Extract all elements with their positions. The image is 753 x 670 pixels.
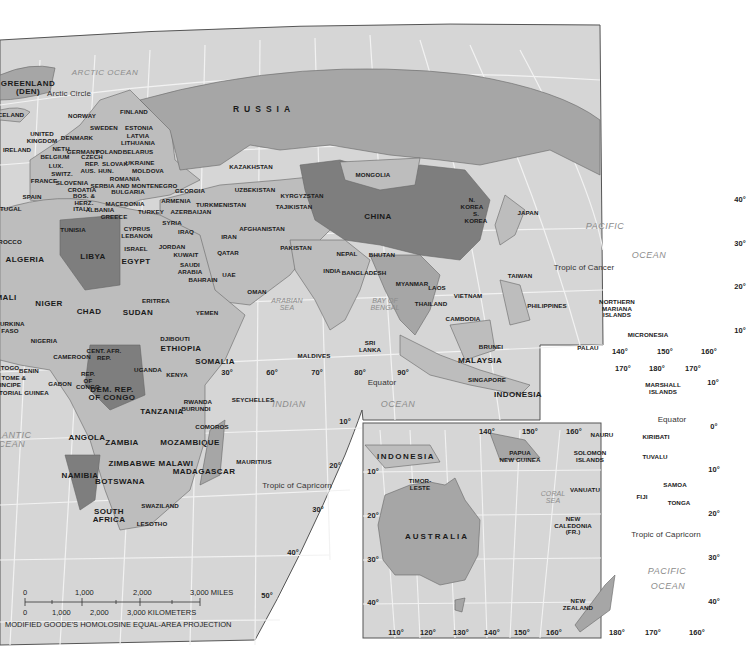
label-nauru: NAURU: [591, 432, 614, 439]
scale-km-1000: 1,000: [52, 608, 71, 617]
label-equatorial-guinea: EQUATORIAL GUINEA: [0, 390, 49, 397]
label-inset-indonesia: INDONESIA: [377, 453, 435, 461]
label-botswana: BOTSWANA: [95, 478, 145, 486]
label-bangladesh: BANGLADESH: [342, 270, 387, 277]
label-inset-pacific-ocean-2: OCEAN: [651, 582, 686, 591]
lon-label-60: 60°: [266, 369, 278, 377]
label-czech: CZECH REP.: [81, 154, 103, 167]
label-moldova: MOLDOVA: [132, 168, 164, 175]
label-swaziland: SWAZILAND: [141, 503, 179, 510]
label-central-african-rep: CENT. AFR. REP.: [87, 348, 122, 361]
label-bhutan: BHUTAN: [369, 252, 395, 259]
scale-km-2000: 2,000: [90, 608, 109, 617]
label-egypt: EGYPT: [121, 258, 150, 266]
label-sudan: SUDAN: [123, 309, 153, 317]
scale-km-0: 0: [23, 608, 27, 617]
label-greece: GREECE: [101, 214, 128, 221]
label-sri-lanka: SRI LANKA: [359, 340, 381, 353]
label-comoros: COMOROS: [195, 424, 228, 431]
inset-lon-140: 140°: [479, 428, 495, 436]
label-russia: RUSSIA: [233, 105, 295, 114]
label-coral-sea: CORAL SEA: [541, 490, 566, 505]
label-n-korea: N. KOREA: [461, 197, 484, 210]
scale-miles-0: 0: [23, 588, 27, 597]
lat-label-s40: 40°: [287, 549, 299, 557]
label-france: FRANCE: [31, 178, 57, 185]
label-ethiopia: ETHIOPIA: [161, 345, 202, 353]
label-estonia: ESTONIA: [125, 125, 153, 132]
label-zimbabwe: ZIMBABWE: [108, 460, 155, 468]
label-macedonia: MACEDONIA: [105, 201, 144, 208]
label-oman: OMAN: [247, 289, 266, 296]
label-inset-equator: Equator: [658, 416, 687, 424]
label-china: CHINA: [364, 213, 391, 221]
label-bahrain: BAHRAIN: [188, 277, 217, 284]
label-palau: PALAU: [577, 345, 598, 352]
label-angola: ANGOLA: [68, 434, 105, 442]
label-belarus: BELARUS: [123, 149, 154, 156]
label-tunisia: TUNISIA: [60, 227, 85, 234]
inset-lon-140b: 140°: [484, 629, 500, 637]
label-indian-ocean-2: OCEAN: [381, 400, 416, 409]
label-qatar: QATAR: [217, 250, 239, 257]
label-belgium: BELGIUM: [40, 154, 69, 161]
label-indian: INDIAN: [272, 400, 306, 409]
label-nepal: NEPAL: [336, 251, 357, 258]
inset-lat-20s-right: 20°: [708, 510, 720, 518]
inset-lat-10s-left: 10°: [367, 468, 379, 476]
label-eritrea: ERITREA: [142, 298, 170, 305]
label-pacific: PACIFIC: [586, 222, 624, 231]
lat-label-40: 40°: [734, 196, 746, 204]
label-northern-mariana: NORTHERN MARIANA ISLANDS: [599, 299, 635, 319]
label-timor-leste: TIMOR- LESTE: [409, 478, 432, 491]
label-chad: CHAD: [77, 308, 102, 316]
label-inset-pacific: PACIFIC: [648, 567, 686, 576]
label-tuvalu: TUVALU: [642, 454, 667, 461]
label-s-korea: S. KOREA: [465, 211, 488, 224]
lat-label-s10: 10°: [339, 418, 351, 426]
label-pacific-ocean-2: OCEAN: [632, 251, 667, 260]
label-libya: LIBYA: [80, 253, 105, 261]
lat-label-s50: 50°: [261, 592, 273, 600]
label-taiwan: TAIWAN: [508, 273, 533, 280]
lon-label-160: 160°: [701, 348, 717, 356]
label-cambodia: CAMBODIA: [446, 316, 481, 323]
lon-label-90: 90°: [397, 369, 409, 377]
label-gabon: GABON: [48, 381, 72, 388]
label-tajikistan: TAJIKISTAN: [276, 204, 313, 211]
label-samoa: SAMOA: [663, 482, 687, 489]
label-armenia: ARMENIA: [161, 198, 191, 205]
label-zambia: ZAMBIA: [105, 439, 139, 447]
inset-lon-110: 110°: [388, 629, 404, 637]
lat-label-30: 30°: [734, 240, 746, 248]
label-papua-new-guinea: PAPUA NEW GUINEA: [499, 450, 540, 463]
label-hun: HUN.: [98, 168, 114, 175]
label-singapore: SINGAPORE: [468, 377, 506, 384]
inset-lat-10n: 10°: [707, 379, 719, 387]
label-iceland: ICELAND: [0, 112, 24, 119]
lon-label-70: 70°: [311, 369, 323, 377]
inset-lat-40s-left: 40°: [367, 599, 379, 607]
inset-lon-160: 160°: [566, 428, 582, 436]
label-uzbekistan: UZBEKISTAN: [235, 187, 275, 194]
label-uk: UNITED KINGDOM: [27, 131, 58, 144]
label-saudi-arabia: SAUDI ARABIA: [178, 262, 203, 275]
label-niger: NIGER: [35, 300, 62, 308]
label-lebanon: LEBANON: [121, 233, 152, 240]
label-equator: Equator: [368, 379, 397, 387]
label-kyrgyzstan: KYRGYZSTAN: [280, 193, 323, 200]
label-aus: AUS.: [80, 168, 95, 175]
label-mali: MALI: [0, 294, 17, 302]
label-kenya: KENYA: [166, 372, 188, 379]
label-mauritius: MAURITIUS: [236, 459, 271, 466]
lon-label-150: 150°: [657, 348, 673, 356]
label-togo: TOGO: [1, 365, 20, 372]
label-sao-tome: SAO TOME & PRINCIPE: [0, 375, 26, 388]
projection-note: MODIFIED GOODE'S HOMOLOSINE EQUAL-AREA P…: [5, 620, 231, 629]
label-somalia: SOMALIA: [195, 358, 235, 366]
label-turkey: TURKEY: [138, 209, 164, 216]
label-lux: LUX.: [49, 163, 64, 170]
label-bulgaria: BULGARIA: [111, 189, 144, 196]
label-algeria: ALGERIA: [6, 256, 45, 264]
label-tropic-of-capricorn: Tropic of Capricorn: [262, 482, 332, 490]
